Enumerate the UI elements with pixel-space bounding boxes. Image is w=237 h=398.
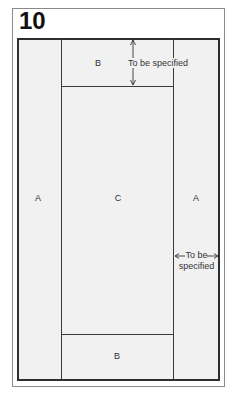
dimension-label-side: To be specified: [174, 250, 219, 272]
dimension-label-side-line2: specified: [174, 261, 219, 272]
dimension-label-top: To be specified: [127, 58, 189, 68]
dimension-label-side-line1: To be: [174, 250, 219, 261]
dimension-arrows: [0, 0, 237, 398]
